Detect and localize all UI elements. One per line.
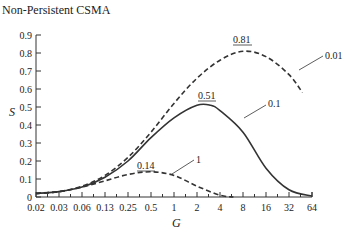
- svg-text:16: 16: [261, 202, 271, 213]
- svg-text:0: 0: [27, 192, 32, 203]
- curve-label-1: 1: [196, 154, 201, 165]
- chart-plot: 00.10.20.30.40.50.60.70.80.90.020.030.06…: [0, 0, 352, 234]
- x-axis-label: G: [172, 216, 181, 230]
- svg-text:0.03: 0.03: [50, 202, 68, 213]
- curve-1: [36, 172, 233, 197]
- curve-label-0.01: 0.01: [325, 50, 343, 61]
- svg-text:0.2: 0.2: [20, 156, 33, 167]
- peak-label-0.14: 0.14: [137, 160, 155, 171]
- curve-label-0.1: 0.1: [268, 98, 281, 109]
- svg-text:1: 1: [172, 202, 177, 213]
- peak-label-0.51: 0.51: [198, 90, 216, 101]
- svg-text:0.25: 0.25: [119, 202, 137, 213]
- curve-0.1: [36, 104, 312, 196]
- svg-text:0.1: 0.1: [20, 174, 33, 185]
- svg-text:0.8: 0.8: [20, 48, 33, 59]
- svg-text:2: 2: [195, 202, 200, 213]
- svg-text:0.5: 0.5: [145, 202, 158, 213]
- svg-text:0.06: 0.06: [73, 202, 91, 213]
- svg-text:8: 8: [241, 202, 246, 213]
- svg-text:0.7: 0.7: [20, 66, 33, 77]
- annotations: [137, 45, 323, 174]
- svg-text:0.02: 0.02: [27, 202, 45, 213]
- svg-text:0.9: 0.9: [20, 30, 33, 41]
- svg-text:0.4: 0.4: [20, 120, 33, 131]
- svg-text:0.3: 0.3: [20, 138, 33, 149]
- svg-text:0.6: 0.6: [20, 84, 33, 95]
- svg-text:32: 32: [284, 202, 294, 213]
- svg-text:0.5: 0.5: [20, 102, 33, 113]
- svg-text:4: 4: [218, 202, 223, 213]
- peak-label-0.81: 0.81: [233, 34, 251, 45]
- y-axis-label: S: [9, 105, 15, 119]
- curves: [36, 51, 312, 197]
- svg-text:64: 64: [307, 202, 317, 213]
- svg-text:0.13: 0.13: [96, 202, 114, 213]
